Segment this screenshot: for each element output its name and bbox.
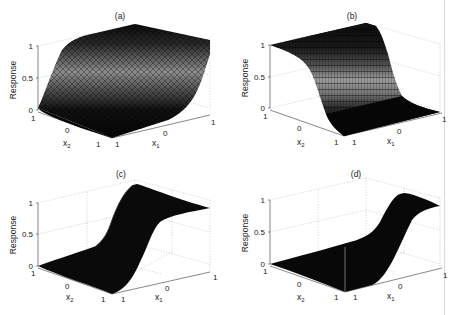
panel-title: (d) — [351, 169, 362, 179]
ztick-labels: 1 0.5 0 — [254, 196, 266, 269]
ztick-labels: 1 0.5 0 — [22, 199, 34, 271]
svg-text:1: 1 — [443, 271, 448, 280]
svg-text:1: 1 — [261, 196, 266, 205]
svg-text:1: 1 — [29, 42, 34, 51]
z-axis-label: Response — [8, 61, 18, 100]
svg-text:1: 1 — [96, 140, 101, 149]
svg-text:0: 0 — [163, 129, 168, 138]
svg-text:0.5: 0.5 — [254, 73, 266, 82]
svg-text:1: 1 — [263, 112, 268, 121]
svg-text:1: 1 — [263, 267, 268, 276]
svg-text:1: 1 — [101, 295, 106, 304]
svg-text:1: 1 — [31, 269, 36, 278]
ztick-labels: 1 0.5 0 — [22, 42, 34, 115]
ztick-labels: 1 0.5 0 — [254, 41, 266, 113]
svg-text:0: 0 — [297, 124, 302, 133]
svg-text:0: 0 — [297, 280, 302, 289]
x2-axis-label: x2 — [66, 292, 74, 303]
svg-text:0: 0 — [398, 282, 403, 291]
z-axis-label: Response — [8, 216, 18, 255]
panel-title: (b) — [347, 11, 358, 21]
svg-text:1: 1 — [352, 138, 357, 147]
x2-axis-label: x2 — [297, 292, 305, 303]
panel-b: (b) 1 0.5 0 Response 1 — [240, 11, 447, 148]
svg-text:1: 1 — [442, 115, 447, 124]
surface-d — [270, 193, 440, 292]
svg-text:1: 1 — [334, 293, 339, 302]
x2-axis-label: x2 — [63, 138, 71, 149]
panel-title: (c) — [116, 169, 126, 179]
panel-c: (c) 1 0.5 0 Response 1 — [8, 169, 218, 304]
x1-axis-label: x1 — [387, 291, 395, 302]
svg-text:0: 0 — [65, 126, 70, 135]
svg-text:1: 1 — [261, 41, 266, 50]
svg-text:0.5: 0.5 — [22, 230, 34, 239]
svg-text:1: 1 — [31, 114, 36, 123]
svg-text:1: 1 — [29, 199, 34, 208]
svg-text:0.5: 0.5 — [22, 74, 34, 83]
x1-axis-label: x1 — [155, 292, 163, 303]
panel-title: (a) — [115, 11, 126, 21]
svg-text:1: 1 — [121, 295, 126, 304]
z-axis-label: Response — [240, 59, 250, 98]
figure: (a) 1 0.5 0 Response — [0, 0, 456, 315]
panel-a: (a) 1 0.5 0 Response — [8, 11, 216, 149]
svg-text:0: 0 — [65, 282, 70, 291]
svg-text:1: 1 — [353, 293, 358, 302]
z-axis-label: Response — [240, 214, 250, 253]
svg-text:0: 0 — [165, 284, 170, 293]
panel-d: (d) 1 0.5 0 Response 1 — [240, 169, 448, 303]
svg-text:1: 1 — [211, 118, 216, 127]
x2-axis-label: x2 — [297, 137, 305, 148]
svg-text:1: 1 — [213, 273, 218, 282]
svg-text:1: 1 — [334, 138, 339, 147]
svg-text:0: 0 — [397, 127, 402, 136]
x1-axis-label: x1 — [387, 136, 395, 147]
svg-text:0.5: 0.5 — [254, 228, 266, 237]
svg-text:1: 1 — [115, 140, 120, 149]
x1-axis-label: x1 — [152, 138, 160, 149]
